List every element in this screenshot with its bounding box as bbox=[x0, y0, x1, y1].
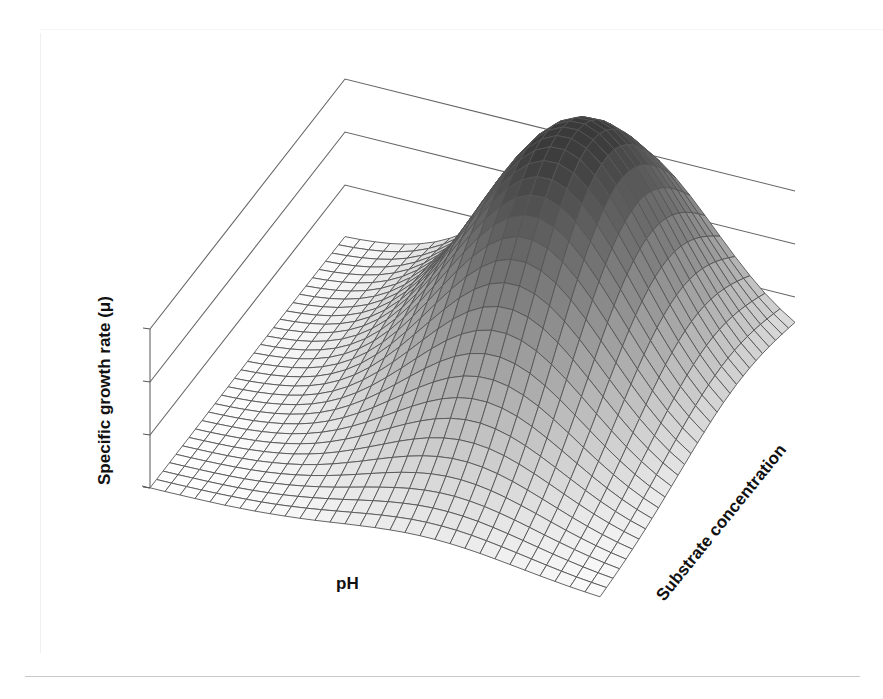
x-axis-label: pH bbox=[336, 574, 359, 593]
z-axis-label: Specific growth rate (μ) bbox=[95, 296, 114, 485]
z-tick bbox=[143, 434, 150, 435]
z-axis bbox=[142, 328, 150, 488]
z-tick bbox=[143, 381, 150, 382]
surface-mesh bbox=[150, 117, 795, 597]
z-tick bbox=[143, 328, 150, 329]
surface-plot: Specific growth rate (μ) pH Substrate co… bbox=[0, 0, 883, 699]
